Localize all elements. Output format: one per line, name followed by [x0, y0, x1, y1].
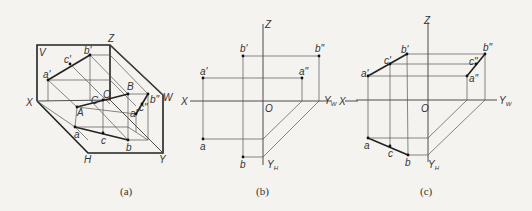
- diagram-canvas: V Z X O W H Y A B C a' c' b' a" c" b" a …: [0, 0, 532, 211]
- label-X-left: X: [180, 96, 188, 107]
- label-X: X: [25, 97, 33, 108]
- label-c: c: [388, 148, 393, 159]
- label-C: C: [91, 95, 99, 106]
- label-Yh: YH: [428, 159, 440, 171]
- label-c-prime: c': [64, 54, 72, 65]
- label-H: H: [84, 154, 92, 165]
- label-a: a: [364, 140, 370, 151]
- label-V: V: [39, 47, 47, 58]
- label-O: O: [103, 89, 111, 100]
- label-b-dprime: b": [483, 42, 493, 53]
- label-X-right: X: [338, 96, 346, 107]
- label-b-prime: b': [84, 45, 93, 56]
- panel-b: Z X X O YW YH a' b' a" b" a b (b): [180, 19, 358, 198]
- label-Z: Z: [264, 19, 272, 30]
- label-c: c: [101, 135, 106, 146]
- label-b-prime: b': [240, 43, 249, 54]
- label-a-dprime: a": [299, 66, 309, 77]
- label-a: a: [74, 129, 80, 140]
- label-b-dprime: b": [150, 94, 160, 105]
- label-O: O: [421, 103, 429, 114]
- label-Z: Z: [107, 33, 115, 44]
- label-B: B: [127, 81, 134, 92]
- label-W: W: [163, 92, 174, 103]
- projection-figure: V Z X O W H Y A B C a' c' b' a" c" b" a …: [0, 0, 532, 211]
- label-a-prime: a': [43, 69, 52, 80]
- label-c-dprime: c": [139, 102, 148, 113]
- label-Yw: YW: [324, 95, 338, 107]
- caption-a: (a): [120, 185, 133, 198]
- panel-a: V Z X O W H Y A B C a' c' b' a" c" b" a …: [25, 33, 174, 198]
- label-A: A: [76, 107, 84, 118]
- label-Z: Z: [423, 15, 431, 26]
- label-a-dprime: a": [469, 73, 479, 84]
- label-b: b: [240, 159, 246, 170]
- label-b: b: [126, 142, 132, 153]
- label-b: b: [405, 157, 411, 168]
- label-a-prime: a': [200, 66, 209, 77]
- label-c-dprime: c": [469, 56, 478, 67]
- label-b-dprime: b": [315, 43, 325, 54]
- caption-c: (c): [420, 185, 433, 198]
- label-a-prime: a': [361, 68, 370, 79]
- panel-c: Z O YW YH a' c' b' a" c" b" a c b (c): [356, 15, 513, 198]
- label-c-prime: c': [384, 55, 392, 66]
- caption-b: (b): [256, 185, 269, 198]
- label-a: a: [200, 141, 206, 152]
- label-Yw: YW: [499, 95, 513, 107]
- label-Y: Y: [159, 154, 167, 165]
- label-b-prime: b': [401, 44, 410, 55]
- label-O: O: [265, 103, 273, 114]
- label-Yh: YH: [267, 159, 279, 171]
